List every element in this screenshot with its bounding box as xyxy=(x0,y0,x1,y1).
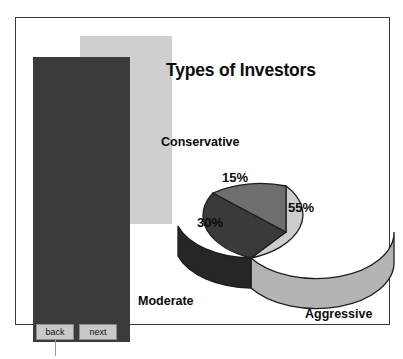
pie-value-moderate: 30% xyxy=(197,215,223,230)
decorative-white-notch xyxy=(33,36,80,57)
pie-chart-svg xyxy=(166,146,403,321)
navigation-panel xyxy=(33,57,130,342)
slide-canvas: back next Types of Investors 15% 30% xyxy=(0,0,403,359)
pie-label-conservative: Conservative xyxy=(161,135,240,149)
pie-value-conservative: 15% xyxy=(222,170,248,185)
pie-label-moderate: Moderate xyxy=(138,294,194,308)
pie-label-aggressive: Aggressive xyxy=(305,307,372,321)
back-button[interactable]: back xyxy=(36,324,74,340)
page-tick-artifact xyxy=(55,339,56,356)
navigation-buttons: back next xyxy=(36,323,128,340)
pie-chart xyxy=(166,146,403,321)
chart-title: Types of Investors xyxy=(166,60,396,81)
pie-value-aggressive: 55% xyxy=(288,200,314,215)
slide-frame: back next Types of Investors 15% 30% xyxy=(15,17,390,325)
next-button[interactable]: next xyxy=(79,324,117,340)
